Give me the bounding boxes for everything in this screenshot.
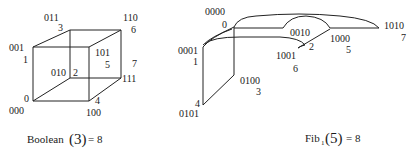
vertex-bits-100: 100 [86,107,101,118]
edge-100-111 [89,78,121,101]
vertex-bits-010: 010 [51,67,66,78]
vertex-index-5: 5 [105,59,110,70]
boolean-caption-name: Boolean [27,133,64,145]
edge-000-010 [33,78,70,101]
vertex-index-0: 0 [24,93,29,104]
vertex-index-5: 5 [346,44,351,55]
vertex-bits-0000: 0000 [205,6,225,17]
vertex-bits-101: 101 [95,47,110,58]
diagram-canvas: 011 3 110 6 001 1 101 5 7 111 010 2 0 00… [0,0,416,156]
edge-001-011 [33,30,70,47]
vertex-bits-111: 111 [122,73,136,84]
boolean-caption-arg: (3) [69,131,87,148]
fib-caption-arg: (5) [325,130,343,147]
vertex-index-4: 4 [95,95,100,106]
edge-101-110 [89,30,121,47]
vertex-index-0: 0 [222,19,227,30]
vertex-index-7: 7 [401,32,406,43]
fib-caption-name: Fib [305,132,320,144]
vertex-bits-000: 000 [9,105,24,116]
edge-0101-0100 [203,75,234,105]
fib-caption-equals: = 8 [346,132,361,144]
boolean-caption-equals: = 8 [88,133,103,145]
vertex-index-1: 1 [23,54,28,65]
vertex-index-7: 7 [132,58,137,69]
vertex-bits-0100: 0100 [240,75,260,86]
vertex-index-6: 6 [293,63,298,74]
fibonacci-cube: 0000 0 0001 1 0010 2 1000 5 1010 7 1001 … [178,6,406,147]
vertex-bits-1000: 1000 [330,33,350,44]
vertex-bits-0010: 0010 [290,27,310,38]
vertex-index-3: 3 [256,86,261,97]
edge-0000-0010 [234,16,330,28]
vertex-bits-0101: 0101 [179,108,199,119]
vertex-index-6: 6 [131,24,136,35]
vertex-index-1: 1 [193,56,198,67]
boolean-cube: 011 3 110 6 001 1 101 5 7 111 010 2 0 00… [9,12,138,148]
vertex-bits-011: 011 [44,12,59,23]
vertex-bits-110: 110 [123,12,138,23]
vertex-bits-0001: 0001 [178,45,198,56]
vertex-index-2: 2 [309,41,314,52]
edge-0001-1001 [205,37,305,48]
vertex-bits-1001: 1001 [276,50,296,61]
vertex-index-2: 2 [73,67,78,78]
vertex-bits-001: 001 [9,42,24,53]
vertex-index-3: 3 [58,22,63,33]
vertex-bits-1010: 1010 [384,20,404,31]
